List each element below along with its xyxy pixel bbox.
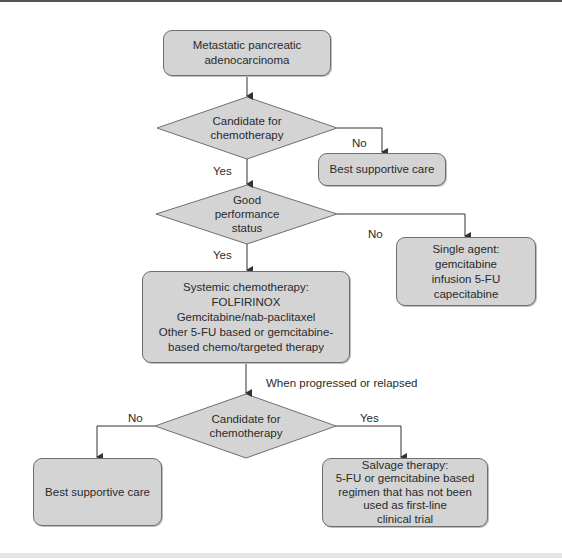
edge-label-no-1: No [352,136,367,150]
edge-label-no-2: No [368,227,383,241]
start-node-label: Metastatic pancreatic adenocarcinoma [193,38,302,68]
edge-label-yes-2: Yes [213,248,232,262]
single-agent-label: Single agent: gemcitabine infusion 5-FU … [432,242,500,302]
decision-performance-label: Good performance status [215,193,280,235]
salvage-therapy-node: Salvage therapy: 5-FU or gemcitabine bas… [322,458,488,527]
best-supportive-care-node-1: Best supportive care [318,153,446,186]
start-node: Metastatic pancreatic adenocarcinoma [163,30,331,76]
decision-candidate-2-label: Candidate for chemotherapy [210,412,283,440]
edge-label-yes-3: Yes [360,411,379,425]
edge-label-no-3: No [128,411,143,425]
salvage-therapy-label: Salvage therapy: 5-FU or gemcitabine bas… [336,459,475,527]
best-supportive-care-2-label: Best supportive care [45,485,150,500]
systemic-chemotherapy-label: Systemic chemotherapy: FOLFIRINOX Gemcit… [159,280,334,355]
systemic-chemotherapy-node: Systemic chemotherapy: FOLFIRINOX Gemcit… [142,271,350,363]
best-supportive-care-node-2: Best supportive care [33,458,162,526]
edge-label-yes-1: Yes [213,164,232,178]
flowchart-canvas: Metastatic pancreatic adenocarcinoma Can… [0,0,562,558]
edge-label-progressed: When progressed or relapsed [266,376,418,390]
bottom-band [0,553,562,558]
best-supportive-care-1-label: Best supportive care [330,162,435,177]
single-agent-node: Single agent: gemcitabine infusion 5-FU … [396,237,536,306]
decision-candidate-1-label: Candidate for chemotherapy [211,114,284,142]
